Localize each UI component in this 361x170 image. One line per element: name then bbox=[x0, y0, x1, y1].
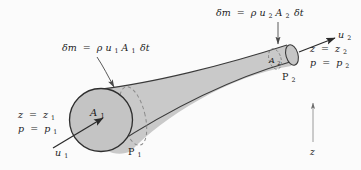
outlet-height-equals: = bbox=[321, 43, 329, 54]
outlet-height-value-sub: 2 bbox=[343, 48, 347, 55]
stream-tube-body bbox=[100, 45, 293, 154]
inlet-mass-flux-rho: ρ bbox=[96, 42, 103, 53]
inlet-mass-flux-label: δm = ρ u 1 A 1 δt bbox=[62, 42, 150, 55]
outlet-point-sub: 2 bbox=[291, 76, 295, 83]
outlet-height-label: z = z 2 bbox=[309, 43, 347, 55]
outlet-area-sub: 2 bbox=[277, 60, 280, 66]
inlet-massflux-leader-arrow bbox=[97, 57, 114, 87]
inlet-height-value-var: z bbox=[42, 109, 49, 120]
inlet-pressure-label: p = p 1 bbox=[18, 123, 57, 135]
outlet-mass-flux-A-sub: 2 bbox=[285, 12, 289, 19]
outlet-mass-flux-u: u bbox=[259, 7, 265, 18]
inlet-height-var: z bbox=[17, 109, 24, 120]
vertical-axis-label: z bbox=[309, 147, 315, 157]
inlet-pressure-value-sub: 1 bbox=[53, 128, 57, 135]
inlet-mass-flux-equals: = bbox=[83, 42, 91, 53]
inlet-mass-flux-delta-t: δt bbox=[140, 42, 150, 53]
inlet-velocity-sub: 1 bbox=[64, 152, 68, 159]
outlet-mass-flux-rho: ρ bbox=[250, 7, 257, 18]
inlet-area-var: A bbox=[89, 107, 97, 118]
outlet-mass-flux-delta-m: δm bbox=[216, 7, 231, 18]
vertical-axis-var: z bbox=[309, 147, 315, 157]
outlet-pressure-equals: = bbox=[322, 57, 330, 68]
inlet-mass-flux-u-sub: 1 bbox=[115, 47, 119, 54]
inlet-area-sub: 1 bbox=[100, 112, 104, 120]
inlet-point-var: P bbox=[128, 146, 135, 157]
outlet-velocity-label: u 2 bbox=[338, 29, 351, 41]
outlet-mass-flux-delta-t: δt bbox=[294, 7, 304, 18]
inlet-pressure-value-var: p bbox=[44, 123, 50, 134]
stream-tube-figure: δm = ρ u 1 A 1 δt δm = ρ u 2 A 2 δt z = … bbox=[0, 0, 361, 170]
inlet-height-label: z = z 1 bbox=[17, 109, 55, 121]
inlet-mass-flux-u: u bbox=[105, 42, 111, 53]
inlet-height-equals: = bbox=[29, 109, 37, 120]
outlet-pressure-var: p bbox=[310, 57, 316, 68]
outlet-velocity-sub: 2 bbox=[347, 34, 351, 41]
outlet-velocity-var: u bbox=[338, 29, 344, 40]
outlet-mass-flux-A: A bbox=[275, 7, 283, 18]
outlet-pressure-label: p = p 2 bbox=[310, 57, 349, 69]
outlet-mass-flux-u-sub: 2 bbox=[269, 12, 273, 19]
inlet-mass-flux-A-sub: 1 bbox=[131, 47, 135, 54]
inlet-pressure-var: p bbox=[18, 123, 24, 134]
outlet-mass-flux-label: δm = ρ u 2 A 2 δt bbox=[216, 7, 304, 20]
inlet-pressure-equals: = bbox=[30, 123, 38, 134]
outlet-point-var: P bbox=[282, 71, 289, 82]
inlet-mass-flux-delta-m: δm bbox=[62, 42, 77, 53]
inlet-point-label: P 1 bbox=[128, 146, 141, 158]
stream-tube-drawing: δm = ρ u 1 A 1 δt δm = ρ u 2 A 2 δt z = … bbox=[0, 0, 361, 170]
outlet-area-var: A bbox=[268, 56, 275, 65]
inlet-velocity-var: u bbox=[55, 147, 61, 158]
inlet-point-sub: 1 bbox=[137, 151, 141, 158]
inlet-height-value-sub: 1 bbox=[51, 114, 55, 121]
outlet-height-var: z bbox=[309, 43, 316, 54]
inlet-mass-flux-A: A bbox=[121, 42, 129, 53]
outlet-pressure-value-sub: 2 bbox=[345, 62, 349, 69]
inlet-velocity-label: u 1 bbox=[55, 147, 68, 159]
outlet-height-value-var: z bbox=[334, 43, 341, 54]
outlet-point-label: P 2 bbox=[282, 71, 295, 83]
outlet-mass-flux-equals: = bbox=[237, 7, 245, 18]
outlet-pressure-value-var: p bbox=[336, 57, 342, 68]
